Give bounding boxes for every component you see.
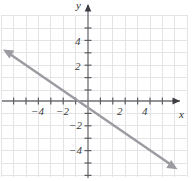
x-tick-label-neg4: −4 xyxy=(31,106,44,117)
coordinate-plane-graph: −4 −2 2 4 4 2 −2 −4 x y xyxy=(0,0,193,181)
y-tick-label-2: 2 xyxy=(75,61,81,72)
x-tick-label-2: 2 xyxy=(117,106,123,117)
x-tick-label-4: 4 xyxy=(142,106,148,117)
graph-canvas xyxy=(0,0,193,181)
x-axis-label: x xyxy=(179,109,184,120)
y-axis-label: y xyxy=(76,0,81,11)
y-tick-label-neg2: −2 xyxy=(69,120,82,131)
x-tick-label-neg2: −2 xyxy=(56,106,69,117)
y-axis xyxy=(85,4,92,178)
y-tick-label-neg4: −4 xyxy=(69,145,82,156)
x-axis xyxy=(2,98,180,105)
grid-lines xyxy=(1,15,188,177)
y-tick-label-4: 4 xyxy=(75,36,81,47)
plotted-line xyxy=(3,49,178,169)
